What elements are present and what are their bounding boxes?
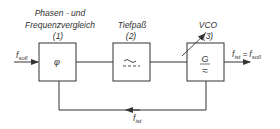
block2-number: (2) [126, 31, 137, 41]
block3-label: VCO [199, 20, 218, 30]
generator-symbol: G [201, 54, 208, 64]
block1-number: (1) [53, 31, 64, 41]
feedback-path [59, 81, 206, 110]
phi-symbol: φ [54, 57, 60, 67]
pll-block-diagram: Phasen - und Frequenzvergleich (1) Tiefp… [0, 0, 280, 129]
block3-number: (3) [203, 31, 214, 41]
lowpass-filter-icon [123, 60, 140, 67]
block1-label-line1: Phasen - und [35, 8, 86, 18]
block1-label-line2: Frequenzvergleich [25, 20, 95, 30]
output-signal-label: fist=fsoll [232, 49, 261, 60]
feedback-signal-label: fist [133, 113, 142, 124]
input-signal-label: fsoll [16, 50, 28, 61]
tilde-symbol: ≈ [202, 65, 208, 76]
block2-label: Tiefpaß [118, 20, 147, 30]
variable-arrow-icon [182, 34, 205, 56]
